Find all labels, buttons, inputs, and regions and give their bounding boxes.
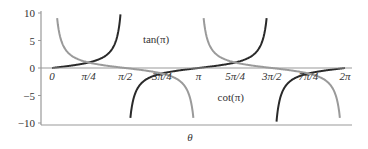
y-tick-label: 10 <box>24 7 36 19</box>
trig-chart: 1050−5−100π/4π/23π/4π5π/43π/27π/42π θ ta… <box>0 0 368 149</box>
x-tick-label: π/4 <box>82 70 97 82</box>
x-tick-label: 5π/4 <box>225 70 245 82</box>
cot-series-label: cot(π) <box>218 91 245 104</box>
y-tick-label: 0 <box>30 62 36 74</box>
x-axis-label: θ <box>187 131 193 143</box>
y-tick-label: −10 <box>18 117 36 129</box>
tan-series-label: tan(π) <box>143 33 170 46</box>
x-tick-label: 2π <box>339 70 351 82</box>
x-tick-label: π/2 <box>118 70 133 82</box>
axes <box>38 11 352 125</box>
x-tick-label: 3π/4 <box>151 70 172 82</box>
y-tick-label: 5 <box>30 35 36 47</box>
y-tick-label: −5 <box>23 90 35 102</box>
x-tick-label: 0 <box>49 70 55 82</box>
x-tick-label: 7π/4 <box>299 70 319 82</box>
x-tick-label: 3π/2 <box>261 70 282 82</box>
x-tick-label: π <box>196 70 202 82</box>
